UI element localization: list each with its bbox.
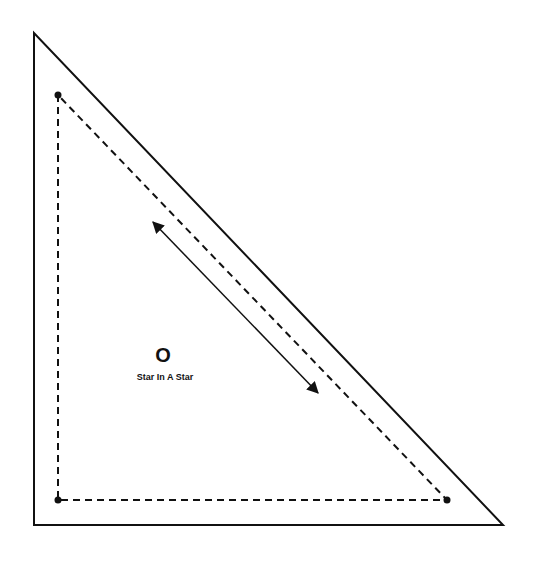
inner-seam-line (58, 95, 447, 500)
piece-name: Star In A Star (110, 372, 220, 382)
piece-letter: O (148, 344, 178, 367)
seam-corner-dot-bottom-left (55, 497, 62, 504)
grain-arrow-icon (153, 222, 318, 393)
outer-cutting-line (34, 33, 503, 525)
template-diagram (0, 0, 533, 561)
seam-corner-dot-top (55, 92, 62, 99)
seam-corner-dot-bottom-right (444, 497, 451, 504)
